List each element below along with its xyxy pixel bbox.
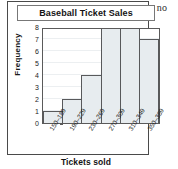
x-axis-ticks: 150–189190–229230–269270–309310–349350–3… <box>42 124 160 156</box>
y-tick-label: 0 <box>26 120 39 128</box>
y-tick-label: 2 <box>26 96 39 104</box>
chart-figure: Baseball Ticket Sales Frequency 01234567… <box>7 1 149 155</box>
y-tick-label: 6 <box>26 48 39 56</box>
y-tick-label: 7 <box>26 36 39 44</box>
y-tick-label: 8 <box>26 24 39 32</box>
y-axis-title: Frequency <box>13 27 22 83</box>
chart-title-band: Baseball Ticket Sales <box>17 5 155 21</box>
chart-title: Baseball Ticket Sales <box>39 8 133 18</box>
y-tick-label: 5 <box>26 60 39 68</box>
y-tick-label: 1 <box>26 108 39 116</box>
y-tick-label: 4 <box>26 72 39 80</box>
x-axis-title: Tickets sold <box>15 157 157 167</box>
y-tick-label: 3 <box>26 84 39 92</box>
y-axis-ticks: 012345678 <box>26 23 39 129</box>
